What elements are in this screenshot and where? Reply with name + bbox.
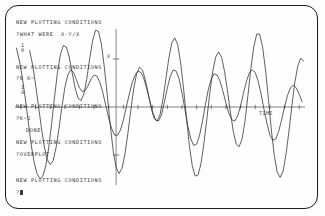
terminal-line: ?OVERPLOT (16, 151, 50, 157)
terminal-prompt[interactable]: ? (16, 189, 23, 195)
terminal-line: NEW PLOTTING CONDITIONS (16, 139, 102, 145)
terminal-line: NEW PLOTTING CONDITIONS (16, 177, 102, 183)
crt-screen: X TIME NEW PLOTTING CONDITIONS?WHAT WERE… (0, 0, 325, 216)
terminal-line: ?WHAT WERE X-Y/X (16, 31, 80, 37)
terminal-output: NEW PLOTTING CONDITIONS?WHAT WERE X-Y/XN… (0, 0, 313, 204)
terminal-line: ?K=2 (16, 115, 31, 121)
cursor-block (20, 190, 23, 194)
terminal-line: NEW PLOTTING CONDITIONS (16, 64, 102, 70)
terminal-line: NEW PLOTTING CONDITIONS (16, 19, 102, 25)
terminal-line: DONE (26, 127, 41, 133)
terminal-value-stack: 1 0 (21, 43, 24, 54)
terminal-line: ?N K= (16, 75, 35, 81)
terminal-value-stack: 1 4 (21, 85, 24, 96)
terminal-line: NEW PLOTTING CONDITIONS (16, 103, 102, 109)
